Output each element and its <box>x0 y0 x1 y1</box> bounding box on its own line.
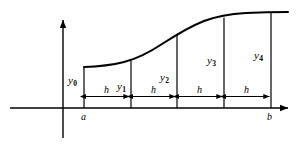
strip-width-label-2: h <box>151 85 156 95</box>
ordinate-label-y3: y3 <box>207 55 216 66</box>
strip-width-label-4: h <box>244 85 249 95</box>
figure-canvas <box>0 0 296 145</box>
integration-strips-figure: y0 y1 y2 y3 y4 h h h h a b <box>0 0 296 145</box>
interval-end-label: b <box>267 112 272 122</box>
ordinate-label-y0: y0 <box>68 75 77 86</box>
ordinate-label-y4: y4 <box>254 50 263 61</box>
strip-width-label-1: h <box>104 85 109 95</box>
interval-start-label: a <box>81 112 86 122</box>
ordinate-label-y1: y1 <box>117 81 126 92</box>
strip-width-label-3: h <box>197 85 202 95</box>
ordinate-label-y2: y2 <box>160 72 169 83</box>
